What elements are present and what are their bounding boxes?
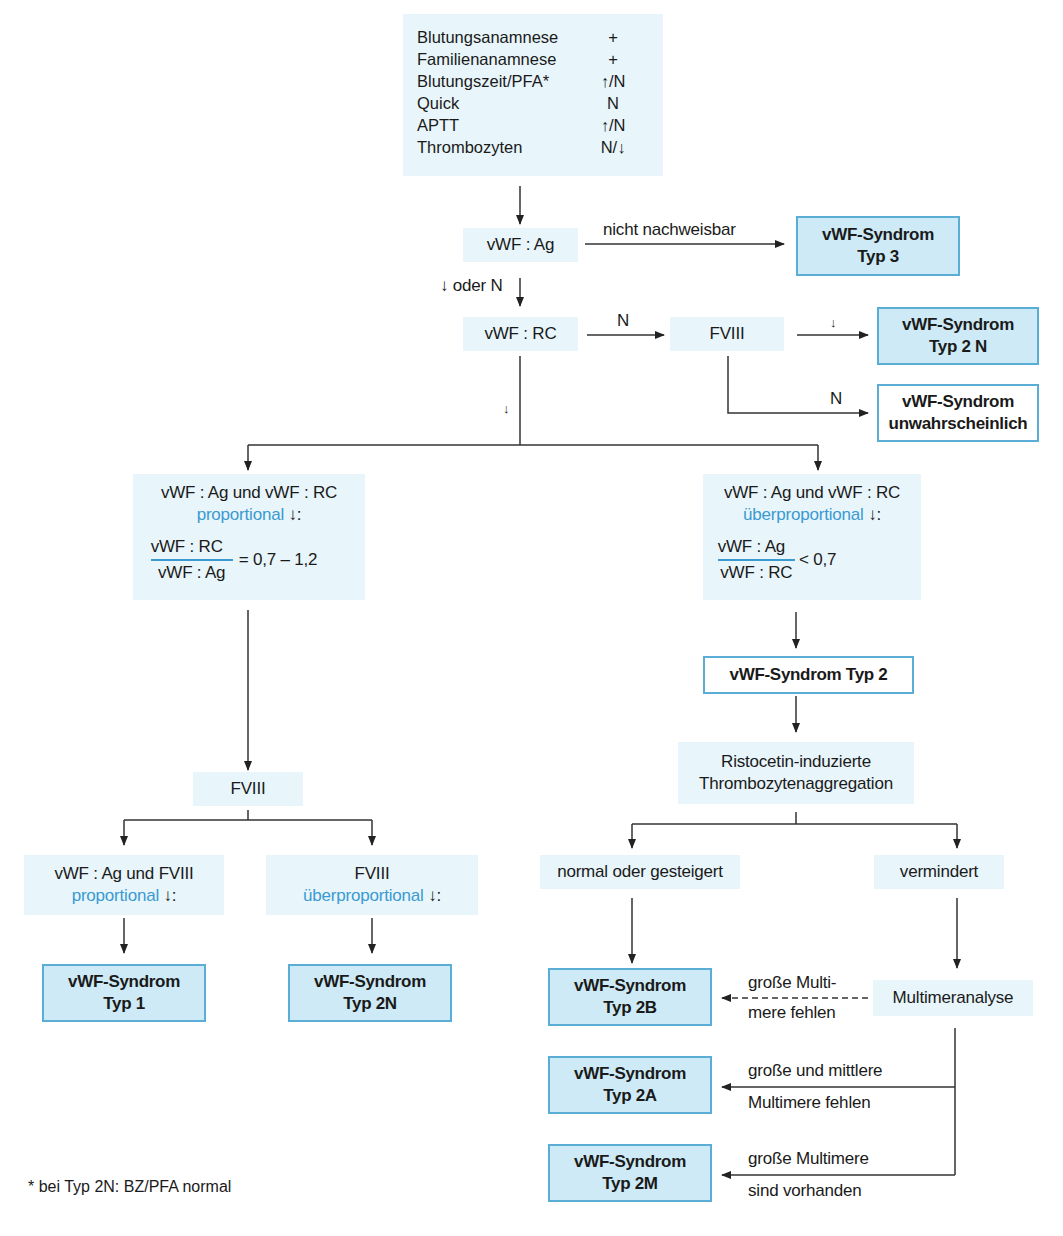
edge-label-n: N [617, 310, 629, 332]
result-typ2b: vWF-SyndromTyp 2B [548, 968, 712, 1026]
result-typ3: vWF-SyndromTyp 3 [796, 216, 960, 276]
edge-label-down-oder-n: ↓ oder N [440, 275, 503, 297]
result-typ2: vWF-Syndrom Typ 2 [703, 656, 914, 694]
node-ristocetin: Ristocetin-induzierteThrombozytenaggrega… [678, 742, 914, 804]
result-typ2n: vWF-SyndromTyp 2N [288, 964, 452, 1022]
edge-label-nicht-nachweisbar: nicht nachweisbar [603, 219, 736, 241]
edge-label-grosse-mittlere-2: Multimere fehlen [748, 1092, 870, 1114]
result-typ1: vWF-SyndromTyp 1 [42, 964, 206, 1022]
result-typ2a: vWF-SyndromTyp 2A [548, 1056, 712, 1114]
node-vwf-rc: vWF : RC [463, 317, 578, 351]
node-fviii-proportional: vWF : Ag und FVIII proportional ↓: [24, 855, 224, 915]
edge-label-grosse-vorhanden-1: große Multimere [748, 1148, 869, 1170]
edge-label-grosse-vorhanden-2: sind vorhanden [748, 1180, 861, 1202]
node-fviii: FVIII [670, 317, 784, 351]
result-typ2n-top: vWF-SyndromTyp 2 N [877, 307, 1039, 365]
edge-label-down-rc: ↓ [503, 398, 509, 420]
edge-label-grosse-multimere-fehlen-2: mere fehlen [748, 1002, 836, 1024]
ratio-formula: vWF : AgvWF : RC < 0,7 [718, 536, 837, 584]
edge-label-n-fviii: N [830, 388, 842, 410]
node-normal-oder-gesteigert: normal oder gesteigert [540, 855, 740, 889]
edge-label-down: ↓ [830, 312, 836, 334]
ratio-formula: vWF : RCvWF : Ag = 0,7 – 1,2 [151, 536, 318, 584]
edge-label-grosse-mittlere-1: große und mittlere [748, 1060, 882, 1082]
node-vermindert: vermindert [874, 855, 1004, 889]
result-typ2m: vWF-SyndromTyp 2M [548, 1144, 712, 1202]
node-proportional-reduction: vWF : Ag und vWF : RC proportional ↓: vW… [133, 474, 365, 600]
node-vwf-ag: vWF : Ag [463, 228, 578, 262]
edge-label-grosse-multimere-fehlen-1: große Multi- [748, 972, 836, 994]
footnote: * bei Typ 2N: BZ/PFA normal [28, 1178, 231, 1196]
node-fviii-overproportional: FVIII überproportional ↓: [266, 855, 478, 915]
connector-lines [0, 0, 1063, 1236]
node-fviii-left: FVIII [193, 772, 303, 806]
history-box: Blutungsanamnese+ Familienanamnese+ Blut… [403, 14, 663, 176]
node-multimeranalyse: Multimeranalyse [873, 980, 1033, 1016]
result-unwahrscheinlich: vWF-Syndromunwahrscheinlich [877, 384, 1039, 442]
node-overproportional-reduction: vWF : Ag und vWF : RC überproportional ↓… [703, 474, 921, 600]
